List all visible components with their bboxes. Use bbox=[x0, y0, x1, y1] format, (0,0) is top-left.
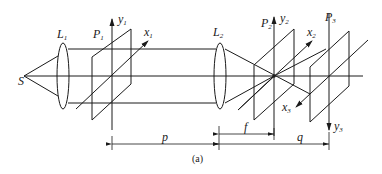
optical-system-diagram: S L1 L2 P1 y1 x1 P2 y2 x2 P3 y3 x3 p f q… bbox=[0, 0, 382, 174]
y3-label: y3 bbox=[333, 119, 343, 134]
y1-label: y1 bbox=[117, 12, 127, 27]
plane-p1 bbox=[76, 19, 148, 130]
focal-point bbox=[272, 74, 276, 78]
x3-label: x3 bbox=[281, 100, 291, 115]
figure-caption: (a) bbox=[192, 153, 203, 165]
plane-p1-label: P1 bbox=[92, 27, 104, 42]
dimension-q-label: q bbox=[297, 130, 303, 144]
dimension-f-label: f bbox=[244, 120, 249, 134]
source-label: S bbox=[18, 74, 24, 88]
lens-l1-label: L1 bbox=[56, 27, 67, 42]
y2-label: y2 bbox=[279, 11, 289, 26]
x3-axis bbox=[296, 40, 368, 107]
x1-label: x1 bbox=[143, 25, 153, 40]
x2-label: x2 bbox=[306, 25, 316, 40]
plane-p2-label: P2 bbox=[260, 16, 272, 31]
plane-p3-label: P3 bbox=[324, 10, 336, 25]
lens-l2-label: L2 bbox=[212, 25, 224, 40]
dimension-p-label: p bbox=[161, 130, 168, 144]
